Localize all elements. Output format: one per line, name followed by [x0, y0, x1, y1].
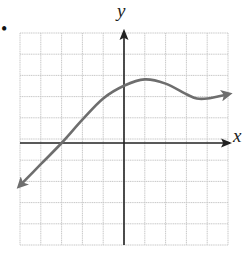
axes	[20, 31, 230, 245]
function-graph	[0, 0, 250, 254]
